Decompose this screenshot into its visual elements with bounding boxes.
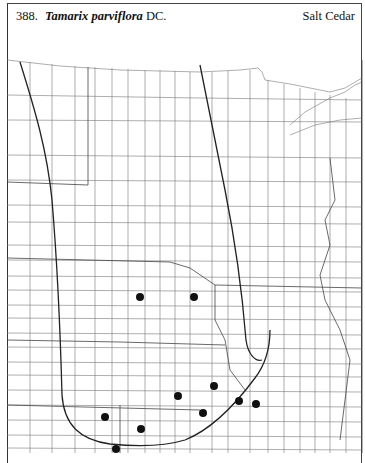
occurrence-dot: [112, 445, 120, 453]
occurrence-dot: [137, 425, 145, 433]
occurrence-dot: [190, 293, 198, 301]
occurrence-dot: [210, 382, 218, 390]
occurrence-dot: [199, 409, 207, 417]
occurrence-dot: [235, 397, 243, 405]
occurrence-dot: [252, 400, 260, 408]
county-boundaries: [7, 60, 362, 453]
occurrence-dot: [101, 413, 109, 421]
occurrence-dot: [136, 293, 144, 301]
occurrence-dots: [101, 293, 260, 453]
occurrence-dot: [174, 392, 182, 400]
